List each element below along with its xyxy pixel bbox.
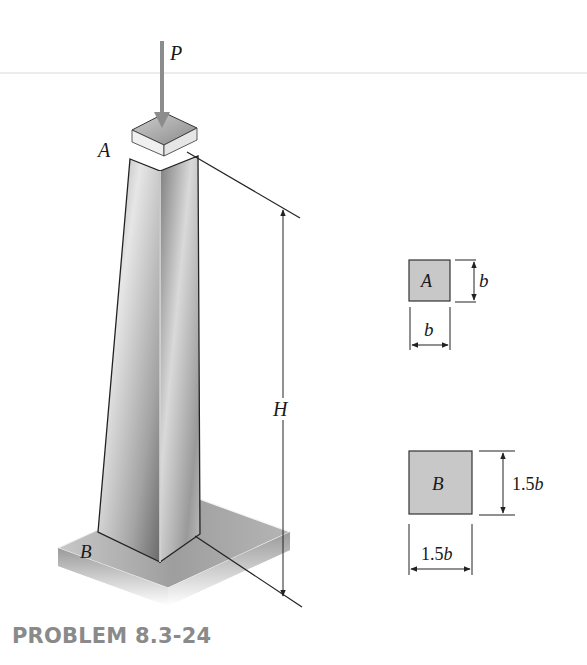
height-label: H	[272, 398, 289, 420]
problem-caption: PROBLEM 8.3-24	[12, 624, 211, 648]
column-diagram: P A B H A b b B 1.5b 1.5b	[0, 0, 587, 665]
section-b-label: B	[432, 473, 444, 494]
section-a-label: A	[420, 271, 433, 291]
section-a-height-label: b	[479, 270, 489, 291]
section-b-height-label: 1.5b	[512, 474, 544, 494]
section-a-width-label: b	[424, 319, 434, 340]
section-b-width-label: 1.5b	[421, 544, 453, 564]
label-b: B	[80, 541, 92, 562]
load-label: P	[169, 42, 182, 64]
section-a	[409, 260, 476, 350]
load-arrow	[154, 41, 170, 128]
label-a: A	[96, 139, 111, 161]
tapered-column	[98, 156, 200, 562]
